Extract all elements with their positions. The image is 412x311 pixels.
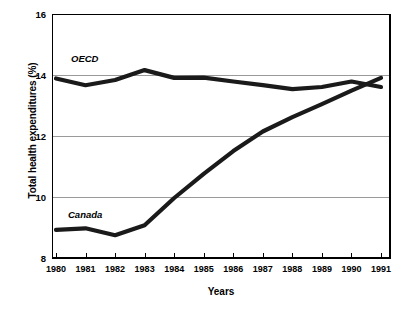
x-tick-mark-1990 [351,253,352,259]
x-tick-mark-1983 [145,253,146,259]
x-tick-mark-1985 [204,253,205,259]
x-tick-mark-1989 [322,253,323,259]
x-axis-title: Years [52,286,390,297]
y-tick-label-12: 12 [24,131,46,142]
line-series-canada [56,78,381,235]
y-tick-label-14: 14 [24,70,46,81]
x-tick-mark-1980 [56,253,57,259]
y-tick-label-8: 8 [24,253,46,264]
x-tick-mark-1988 [292,253,293,259]
plot-area [52,14,390,258]
x-tick-mark-1987 [263,253,264,259]
series-lines [52,14,390,258]
series-label-oecd: OECD [71,53,98,64]
x-tick-mark-1984 [174,253,175,259]
y-tick-label-10: 10 [24,192,46,203]
series-label-canada: Canada [68,209,102,220]
x-tick-mark-1991 [381,253,382,259]
y-tick-label-16: 16 [24,9,46,20]
x-tick-label-1991: 1991 [361,264,401,274]
x-tick-mark-1981 [86,253,87,259]
x-tick-mark-1982 [115,253,116,259]
line-series-oecd [56,70,381,89]
chart-figure: Total health expenditures (%) 16 14 12 1… [0,0,412,311]
x-tick-mark-1986 [233,253,234,259]
